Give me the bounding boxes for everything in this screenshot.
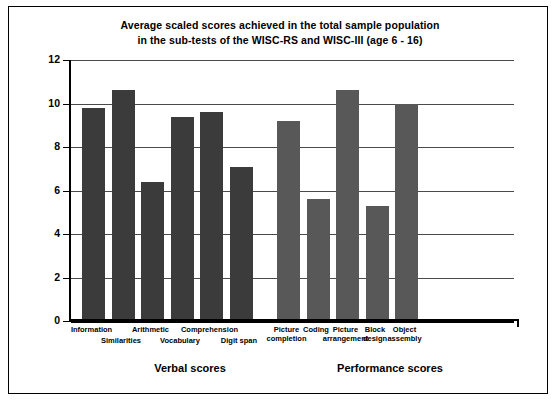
chart-figure: Average scaled scores achieved in the to… [0, 0, 558, 402]
y-axis-tick-mark [63, 191, 71, 192]
bar-picture-completion [277, 121, 300, 321]
y-axis-tick-mark [63, 147, 71, 148]
bar-information [82, 108, 105, 321]
y-axis-tick-mark [63, 60, 71, 61]
bar-digit-span [230, 167, 253, 321]
x-axis-category-label: Objectassembly [365, 325, 445, 343]
y-axis-tick-label: 4 [54, 227, 60, 239]
bar-picture-arrangement [336, 90, 359, 321]
bar-vocabulary [171, 117, 194, 321]
chart-title-line-2: in the sub-tests of the WISC-RS and WISC… [40, 33, 520, 48]
category-label-line-1: Object [365, 325, 445, 334]
gridline [71, 60, 514, 61]
category-label-line-2: assembly [365, 334, 445, 343]
y-axis-tick-mark [63, 321, 71, 322]
y-axis-tick-mark [63, 104, 71, 105]
group-label-performance-scores: Performance scores [300, 362, 480, 374]
bar-comprehension [200, 112, 223, 321]
bar-block-design [366, 206, 389, 321]
group-label-verbal-scores: Verbal scores [100, 362, 280, 374]
y-axis-tick-group: 12 [71, 60, 514, 61]
y-axis-tick-mark [63, 234, 71, 235]
bar-arithmetic [141, 182, 164, 321]
x-axis-line [69, 319, 519, 321]
x-axis-category-label: Comprehension [170, 325, 250, 334]
x-axis-end-tick [517, 319, 519, 327]
chart-title-line-1: Average scaled scores achieved in the to… [40, 18, 520, 33]
y-axis-tick-label: 12 [48, 53, 60, 65]
y-axis-tick-label: 6 [54, 184, 60, 196]
y-axis-tick-label: 10 [48, 97, 60, 109]
category-label-line-1: Comprehension [170, 325, 250, 334]
y-axis-tick-label: 2 [54, 271, 60, 283]
y-axis-tick-group: 0 [71, 321, 514, 322]
y-axis-tick-label: 8 [54, 140, 60, 152]
bar-object-assembly [395, 104, 418, 322]
gridline [71, 104, 514, 105]
bar-similarities [112, 90, 135, 321]
bar-coding [307, 199, 330, 321]
chart-title: Average scaled scores achieved in the to… [40, 18, 520, 48]
y-axis-tick-mark [63, 278, 71, 279]
plot-area: 121086420 [69, 60, 512, 321]
y-axis-tick-group: 10 [71, 104, 514, 105]
axis-baseline [71, 321, 514, 323]
